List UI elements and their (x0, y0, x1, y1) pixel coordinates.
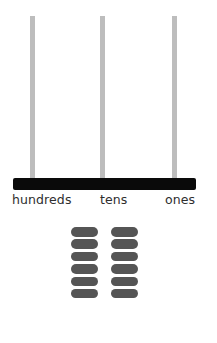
rod-ones[interactable] (172, 16, 177, 179)
rod-hundreds[interactable] (30, 16, 35, 179)
bead[interactable] (111, 252, 138, 262)
bead[interactable] (71, 289, 98, 299)
bead[interactable] (111, 277, 138, 287)
bead[interactable] (111, 239, 138, 249)
rod-tens[interactable] (100, 16, 105, 179)
bead[interactable] (71, 277, 98, 287)
label-ones: ones (165, 192, 195, 208)
abacus-base (13, 178, 196, 190)
label-hundreds: hundreds (12, 192, 72, 208)
bead-column-left (71, 227, 98, 301)
bead[interactable] (111, 289, 138, 299)
bead[interactable] (71, 239, 98, 249)
bead[interactable] (111, 264, 138, 274)
bead-column-right (111, 227, 138, 301)
bead[interactable] (71, 264, 98, 274)
label-tens: tens (100, 192, 127, 208)
bead[interactable] (71, 227, 98, 237)
bead[interactable] (111, 227, 138, 237)
bead[interactable] (71, 252, 98, 262)
